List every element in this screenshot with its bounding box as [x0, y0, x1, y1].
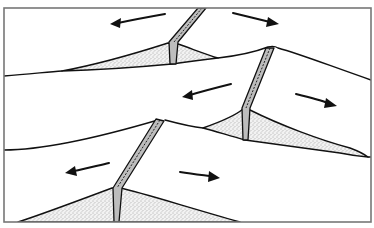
lower-ridge-top-line-right — [165, 120, 203, 128]
lower-ridge-top-line — [4, 120, 158, 150]
figure-frame — [4, 8, 371, 222]
ridge-diagram — [0, 0, 374, 228]
upper-ridge-line-left — [4, 71, 62, 76]
arrow-lower-left-icon — [65, 163, 109, 176]
arrow-middle-left-icon — [182, 84, 231, 100]
arrow-middle-right-icon — [296, 94, 337, 108]
arrow-upper-left-icon — [110, 14, 165, 28]
ridge-diagram-svg — [0, 0, 374, 228]
middle-ridge-top-line — [218, 46, 371, 80]
lower-sand-wedge — [18, 188, 240, 222]
middle-sand-wedge — [203, 109, 368, 157]
arrow-upper-right-icon — [233, 13, 279, 27]
upper-sand-wedge — [62, 43, 218, 71]
arrow-lower-right-icon — [180, 171, 220, 182]
